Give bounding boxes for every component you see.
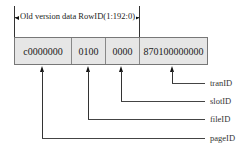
pointer-pageid-horizontal bbox=[42, 138, 205, 139]
pointer-fileid-horizontal bbox=[88, 119, 205, 120]
label-pageid: pageID bbox=[210, 133, 235, 143]
segment-tranid: 870100000000 bbox=[140, 38, 207, 64]
pointer-slotid-horizontal bbox=[121, 101, 205, 102]
pointer-slotid-vertical bbox=[121, 71, 122, 101]
bracket-right-tick bbox=[139, 6, 140, 37]
bracket-left-tick bbox=[14, 6, 15, 37]
segment-fileid: 0100 bbox=[72, 38, 106, 64]
segment-slotid: 0000 bbox=[106, 38, 140, 64]
label-tranid: tranID bbox=[210, 78, 232, 88]
pointer-pageid-vertical bbox=[42, 71, 43, 138]
rowid-box: c0000000 0100 0000 870100000000 bbox=[14, 37, 208, 65]
label-fileid: fileID bbox=[210, 114, 230, 124]
pointer-tranid-vertical bbox=[172, 71, 173, 83]
segment-pageid: c0000000 bbox=[15, 38, 72, 64]
pointer-fileid-vertical bbox=[88, 71, 89, 119]
label-slotid: slotID bbox=[210, 96, 231, 106]
pointer-tranid-horizontal bbox=[172, 83, 205, 84]
header-label: Old version data RowID(1:192:0) bbox=[19, 11, 136, 21]
